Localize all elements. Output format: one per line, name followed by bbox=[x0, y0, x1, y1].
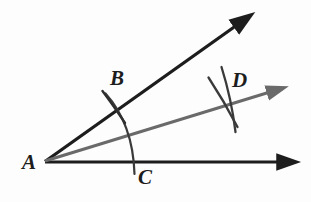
vertex-label-a: A bbox=[22, 152, 36, 173]
vertex-label-b: B bbox=[110, 68, 124, 89]
figure-canvas bbox=[0, 0, 311, 202]
vertex-label-d: D bbox=[232, 70, 247, 91]
upper-ray bbox=[45, 25, 237, 162]
vertex-label-c: C bbox=[138, 167, 152, 188]
geometry-figure: A B C D bbox=[0, 0, 311, 202]
